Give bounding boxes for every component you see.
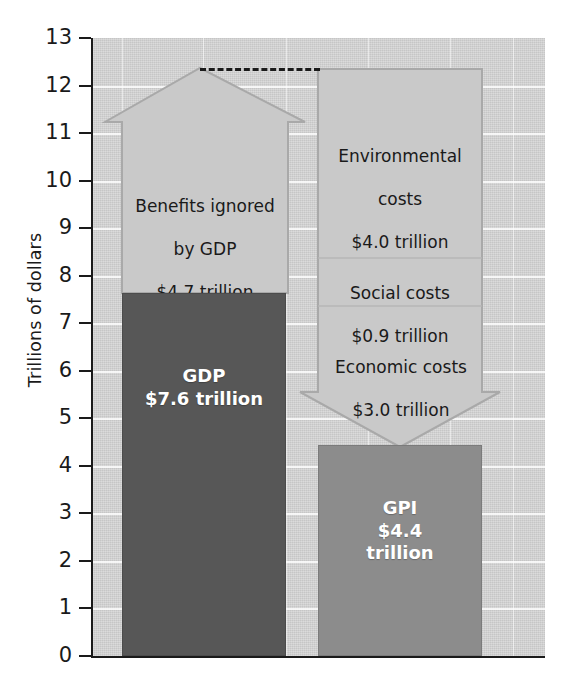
gpi-bar-label-line-3: trillion <box>318 542 482 565</box>
economic-costs-annotation: Economic costs $3.0 trillion <box>308 336 494 443</box>
gpi-bar: GPI $4.4 trillion <box>318 445 482 656</box>
y-tick-mark <box>79 132 91 134</box>
benefits-line-2: by GDP <box>122 239 288 260</box>
economic-line-1: Economic costs <box>308 357 494 378</box>
y-tick-mark <box>79 560 91 562</box>
gridline <box>93 86 545 88</box>
y-tick-label: 10 <box>24 170 72 191</box>
y-tick-mark <box>79 655 91 657</box>
y-tick-mark <box>79 465 91 467</box>
dashed-reference-line <box>200 68 320 71</box>
y-tick-mark <box>79 370 91 372</box>
y-tick-mark <box>79 37 91 39</box>
gdp-bar-label-line-2: $7.6 trillion <box>122 388 286 411</box>
environmental-line-1: Environmental <box>316 146 484 167</box>
gdp-bar: GDP $7.6 trillion <box>122 293 286 656</box>
gpi-bar-label-line-1: GPI <box>318 497 482 520</box>
y-tick-mark <box>79 275 91 277</box>
environmental-line-3: $4.0 trillion <box>316 232 484 253</box>
y-tick-label: 9 <box>24 217 72 238</box>
y-tick-label: 6 <box>24 360 72 381</box>
y-tick-mark <box>79 417 91 419</box>
y-tick-label: 3 <box>24 502 72 523</box>
gpi-bar-label: GPI $4.4 trillion <box>318 497 482 565</box>
y-tick-label: 5 <box>24 407 72 428</box>
environmental-line-2: costs <box>316 189 484 210</box>
gridline-vertical <box>286 38 287 656</box>
y-tick-label: 0 <box>24 645 72 666</box>
y-tick-label: 7 <box>24 312 72 333</box>
x-axis-line <box>91 656 545 658</box>
social-line-1: Social costs <box>314 283 486 304</box>
gdp-bar-label: GDP $7.6 trillion <box>122 365 286 410</box>
y-tick-label: 2 <box>24 550 72 571</box>
y-tick-label: 4 <box>24 455 72 476</box>
y-tick-mark <box>79 607 91 609</box>
y-axis-line <box>91 38 93 657</box>
y-tick-mark <box>79 512 91 514</box>
gdp-gpi-chart: Trillions of dollars Benefits ig <box>0 0 563 687</box>
gridline-vertical <box>513 38 514 656</box>
economic-line-2: $3.0 trillion <box>308 400 494 421</box>
y-tick-mark <box>79 85 91 87</box>
gpi-bar-label-line-2: $4.4 <box>318 520 482 543</box>
y-tick-label: 11 <box>24 122 72 143</box>
environmental-costs-annotation: Environmental costs $4.0 trillion <box>316 125 484 275</box>
y-tick-mark <box>79 180 91 182</box>
y-tick-label: 12 <box>24 75 72 96</box>
y-tick-label: 13 <box>24 27 72 48</box>
y-tick-label: 1 <box>24 597 72 618</box>
y-tick-label: 8 <box>24 265 72 286</box>
y-tick-mark <box>79 322 91 324</box>
gdp-bar-label-line-1: GDP <box>122 365 286 388</box>
benefits-line-1: Benefits ignored <box>122 196 288 217</box>
y-tick-mark <box>79 227 91 229</box>
